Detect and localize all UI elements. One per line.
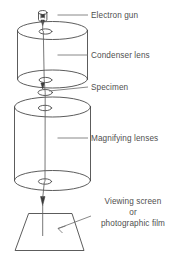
tem-diagram: Electron gun Condenser lens Specimen Mag… — [0, 0, 177, 265]
label-viewing-screen-line2: or — [129, 208, 137, 217]
leader-viewing-screen-arrowhead — [58, 226, 66, 233]
condenser-bottom-aperture — [39, 77, 52, 82]
label-viewing-screen-line1: Viewing screen — [105, 197, 162, 206]
label-viewing-screen-line3: photographic film — [101, 219, 165, 228]
label-electron-gun: Electron gun — [91, 11, 139, 20]
magnifying-bottom-ellipse — [15, 171, 91, 191]
beam-segment-specimen — [44, 80, 45, 93]
condenser-bottom-ellipse — [18, 70, 88, 88]
viewing-screen-trapezoid — [16, 214, 85, 251]
magnifying-top-ellipse — [15, 97, 91, 117]
label-magnifying-lenses: Magnifying lenses — [91, 134, 158, 143]
electron-gun-emitter — [41, 15, 44, 18]
beam-segment-condenser — [43, 31, 44, 80]
condenser-top-ellipse — [18, 22, 88, 40]
tem-diagram-canvas: Electron gun Condenser lens Specimen Mag… — [0, 0, 177, 265]
electron-gun-top-cap — [39, 11, 47, 15]
condenser-top-aperture — [39, 29, 52, 34]
label-specimen: Specimen — [91, 83, 129, 92]
viewing-screen-assembly — [16, 197, 85, 251]
leader-lines — [49, 15, 91, 233]
label-condenser-lens: Condenser lens — [91, 51, 150, 60]
magnifying-column — [15, 97, 91, 191]
